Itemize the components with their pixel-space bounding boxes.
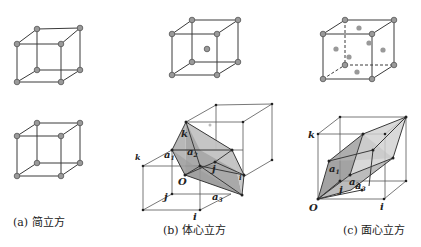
fcc-label-k: k: [308, 129, 315, 140]
bcc-cell-top: [169, 17, 241, 78]
crystal-lattice-figure: k a1 a2 j O i j a3 i k: [0, 0, 421, 247]
bcc-label-i-upper: i: [239, 173, 242, 182]
simple-cubic-cell-top: [14, 25, 83, 85]
bcc-primitive-cell: k a1 a2 j O i j a3 i k: [135, 103, 273, 222]
bcc-label-origin: O: [178, 176, 187, 187]
fcc-label-a3: a3: [355, 180, 366, 192]
fcc-label-i: i: [380, 201, 384, 212]
fcc-primitive-cell: k a1 a2 j a3 O i: [308, 116, 408, 214]
fcc-cell-top: [320, 17, 397, 82]
fcc-label-origin: O: [309, 202, 318, 213]
caption-simple-cubic: (a) 简立方: [13, 213, 65, 229]
bcc-label-a3: a3: [212, 191, 223, 203]
caption-body-centered-cubic: (b) 体心立方: [163, 221, 226, 237]
caption-face-centered-cubic: (c) 面心立方: [343, 221, 405, 237]
bcc-label-j: j: [162, 191, 168, 202]
body-center-atom: [204, 46, 210, 52]
simple-cubic-cell-bottom: [14, 120, 83, 179]
bcc-label-k: k: [181, 128, 188, 139]
bcc-label-k-left: k: [135, 152, 141, 162]
